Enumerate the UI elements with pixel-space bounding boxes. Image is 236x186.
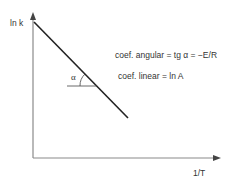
y-axis-arrow-icon	[30, 12, 36, 20]
intercept-text: coef. linear = ln A	[118, 71, 183, 81]
regression-line	[34, 22, 128, 118]
slope-text: coef. angular = tg α = −E/R	[115, 50, 217, 60]
arrhenius-plot	[0, 0, 236, 186]
angle-arc	[80, 74, 85, 86]
x-axis-arrow-icon	[213, 155, 221, 161]
x-axis-label: 1/T	[193, 168, 205, 178]
angle-label: α	[71, 72, 76, 82]
y-axis-label: ln k	[10, 18, 23, 28]
